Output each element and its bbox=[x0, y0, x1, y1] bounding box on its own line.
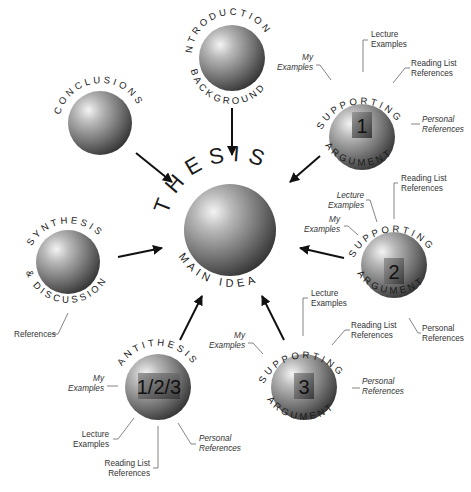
sa2-lecture-label: Lecture bbox=[337, 191, 365, 200]
arrow-sa2-to-thesis bbox=[300, 248, 344, 258]
leader-antithesis-reading bbox=[153, 426, 158, 468]
arrow-antithesis-to-thesis bbox=[180, 296, 202, 340]
sa2-number: 2 bbox=[388, 261, 399, 283]
sa2-lecture-examples-label: Examples bbox=[328, 201, 364, 210]
sphere-thesis bbox=[184, 184, 276, 276]
synthesis-references-label: References bbox=[14, 330, 56, 339]
essay-structure-diagram: THESIS MAIN IDEA INTRODUCTION BACKGROUND… bbox=[0, 0, 471, 492]
arrow-sa1-to-thesis bbox=[290, 156, 320, 182]
sa3-lecture-examples-label: Examples bbox=[311, 299, 347, 308]
sa1-personal-label: Personal bbox=[422, 115, 454, 124]
leader-sa2-my-examples bbox=[344, 226, 358, 235]
antithesis-examples-label: Examples bbox=[68, 384, 104, 393]
sphere-synthesis bbox=[36, 230, 100, 294]
sa3-my-label: My bbox=[234, 331, 246, 340]
leader-sa3-reading bbox=[332, 330, 350, 345]
node-supporting-argument-2: 2 SUPPORTING ARGUMENT My Examples Lectur… bbox=[304, 174, 464, 343]
sa3-lecture-label: Lecture bbox=[311, 289, 339, 298]
node-antithesis: 1/2/3 ANTITHESIS My Examples Lecture Exa… bbox=[68, 337, 241, 478]
sa3-reading-references-label: References bbox=[351, 331, 393, 340]
leader-sa1-lecture bbox=[363, 40, 368, 72]
sa1-my-label: My bbox=[302, 53, 314, 62]
leader-sa2-personal bbox=[409, 318, 421, 333]
leader-antithesis-lecture bbox=[113, 418, 134, 439]
sa3-personal-label: Personal bbox=[362, 377, 394, 386]
leader-sa1-my-examples bbox=[316, 65, 331, 80]
node-conclusions: CONCLUSIONS bbox=[51, 74, 146, 155]
antithesis-lecture-examples-label: Examples bbox=[73, 440, 109, 449]
antithesis-personal-references-label: References bbox=[199, 444, 241, 453]
sa1-reading-label: Reading List bbox=[411, 59, 457, 68]
arrow-synthesis-to-thesis bbox=[118, 248, 162, 257]
sa3-reading-label: Reading List bbox=[351, 321, 397, 330]
sa1-lecture-examples-label: Examples bbox=[371, 40, 407, 49]
sa2-reading-label: Reading List bbox=[401, 174, 447, 183]
leader-antithesis-personal bbox=[178, 423, 196, 444]
sphere-conclusions bbox=[68, 91, 132, 155]
node-thesis: THESIS MAIN IDEA bbox=[149, 141, 276, 289]
node-supporting-argument-1: 1 SUPPORTING ARGUMENT My Examples Lectur… bbox=[277, 30, 464, 170]
sa3-number: 3 bbox=[298, 376, 309, 398]
leader-sa2-lecture bbox=[366, 200, 377, 222]
antithesis-reading-label: Reading List bbox=[104, 459, 150, 468]
sa3-personal-references-label: References bbox=[362, 387, 404, 396]
antithesis-my-label: My bbox=[93, 374, 105, 383]
antithesis-number: 1/2/3 bbox=[137, 376, 181, 398]
antithesis-reading-references-label: References bbox=[108, 469, 150, 478]
sa2-personal-references-label: References bbox=[422, 334, 464, 343]
sa2-examples-label: Examples bbox=[304, 225, 340, 234]
sa2-reading-references-label: References bbox=[401, 184, 443, 193]
antithesis-lecture-label: Lecture bbox=[82, 430, 110, 439]
leader-sa3-lecture bbox=[303, 298, 308, 336]
sa2-my-label: My bbox=[329, 215, 341, 224]
sa2-personal-label: Personal bbox=[422, 324, 454, 333]
leader-sa3-my-examples bbox=[248, 343, 263, 354]
sa1-lecture-label: Lecture bbox=[371, 30, 399, 39]
sphere-introduction bbox=[199, 25, 265, 91]
antithesis-personal-label: Personal bbox=[199, 434, 231, 443]
node-supporting-argument-3: 3 SUPPORTING ARGUMENT My Examples Lectur… bbox=[209, 289, 404, 422]
sa1-number: 1 bbox=[356, 115, 367, 137]
sa1-examples-label: Examples bbox=[277, 63, 313, 72]
sa1-reading-references-label: References bbox=[411, 69, 453, 78]
leader-sa2-reading bbox=[394, 183, 398, 219]
sa1-personal-references-label: References bbox=[422, 125, 464, 134]
sa3-examples-label: Examples bbox=[209, 341, 245, 350]
node-synthesis: SYNTHESIS & DISCUSSION References bbox=[14, 214, 109, 339]
leader-sa1-reading bbox=[393, 68, 410, 83]
arrow-sa3-to-thesis bbox=[262, 296, 284, 340]
